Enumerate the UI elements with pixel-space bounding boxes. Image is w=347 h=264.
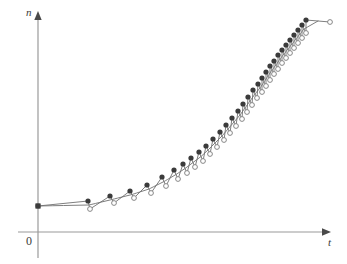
open-circle-marker [300, 36, 305, 41]
open-circle-marker [149, 191, 154, 196]
open-circle-marker [260, 90, 265, 95]
filled-circle-marker [299, 22, 304, 27]
open-circle-marker [255, 96, 260, 101]
open-circle-marker [280, 61, 285, 66]
open-circle-marker [185, 171, 190, 176]
open-circle-marker [276, 67, 281, 72]
filled-circle-marker [107, 193, 112, 198]
open-circle-marker [272, 72, 277, 77]
filled-circle-marker [171, 167, 176, 172]
open-circle-marker [193, 165, 198, 170]
data-series-group [35, 17, 332, 211]
open-circle-marker [208, 152, 213, 157]
open-circle-marker [250, 103, 255, 108]
filled-circle-marker [267, 63, 272, 68]
open-circle-marker [284, 56, 289, 61]
plot-canvas [0, 0, 347, 264]
open-circle-marker [112, 201, 117, 206]
filled-circle-marker [303, 17, 308, 22]
open-circle-marker [296, 41, 301, 46]
open-circle-marker [234, 124, 239, 129]
filled-circle-marker [295, 27, 300, 32]
filled-circle-marker [240, 101, 245, 106]
filled-circle-marker [127, 188, 132, 193]
open-circle-marker [268, 78, 273, 83]
start-square-marker [35, 203, 40, 208]
filled-circle-marker [235, 108, 240, 113]
filled-circle-marker [203, 143, 208, 148]
filled-circle-marker [271, 58, 276, 63]
open-circle-marker [228, 131, 233, 136]
y-axis-label: n [26, 6, 32, 18]
filled-circle-marker [180, 161, 185, 166]
filled-circle-marker [159, 174, 164, 179]
filled-circle-marker [283, 42, 288, 47]
filled-circle-marker [255, 81, 260, 86]
open-circle-marker [132, 196, 137, 201]
open-circle-marker [304, 31, 309, 36]
filled-circle-marker [188, 155, 193, 160]
filled-circle-marker [275, 52, 280, 57]
open-circle-marker [288, 51, 293, 56]
growth-curve-figure: n t 0 [0, 0, 347, 264]
open-circle-marker [222, 138, 227, 143]
filled-circle-marker [85, 198, 90, 203]
filled-circle-marker [259, 75, 264, 80]
open-circle-marker [328, 20, 333, 25]
open-circle-marker [201, 159, 206, 164]
filled-circle-marker [250, 87, 255, 92]
filled-circle-marker [263, 69, 268, 74]
open-circle-marker [88, 207, 93, 212]
x-axis-label: t [328, 236, 331, 248]
filled-circle-marker [223, 122, 228, 127]
filled-circle-marker [196, 149, 201, 154]
axes-group [18, 11, 331, 258]
filled-circle-marker [144, 182, 149, 187]
growth-curve-line [38, 20, 330, 209]
open-circle-marker [164, 184, 169, 189]
filled-circle-marker [291, 32, 296, 37]
filled-circle-marker [229, 115, 234, 120]
open-circle-marker [264, 84, 269, 89]
origin-label: 0 [26, 234, 32, 249]
open-circle-marker [176, 177, 181, 182]
filled-circle-marker [217, 129, 222, 134]
filled-circle-marker [245, 94, 250, 99]
open-circle-marker [240, 117, 245, 122]
filled-circle-marker [279, 47, 284, 52]
open-circle-marker [245, 110, 250, 115]
x-axis-arrowhead [322, 228, 331, 235]
open-circle-marker [292, 46, 297, 51]
open-circle-marker [215, 145, 220, 150]
filled-circle-marker [210, 136, 215, 141]
y-axis-arrowhead [34, 11, 41, 20]
filled-circle-marker [287, 37, 292, 42]
